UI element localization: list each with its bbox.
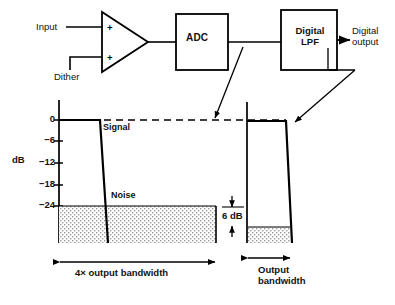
amp-plus-bottom-icon: + [107, 52, 113, 63]
dither-wire [70, 57, 102, 70]
noise-floor-filtered [248, 227, 290, 243]
delta-annotation: 6 dB [222, 211, 243, 222]
wideband-span-label: 4× output bandwidth [75, 268, 168, 279]
input-label: Input [36, 22, 57, 33]
y-tick-label-minus24: −24 [31, 200, 55, 211]
adc-label: ADC [186, 32, 208, 43]
y-tick-label-minus6: −6 [35, 135, 55, 146]
noise-annotation: Noise [111, 190, 136, 200]
digital-output-label: Digital output [352, 26, 378, 47]
lpf-leader-line [295, 70, 355, 122]
signal-annotation: Signal [103, 122, 130, 132]
noise-floor-wideband [59, 206, 216, 243]
figure-oversampling-adc: + + [0, 0, 395, 305]
y-tick-label-0: 0 [41, 114, 55, 125]
signal-trace-filtered [247, 121, 292, 243]
summing-amplifier [102, 12, 148, 72]
y-axis-label: dB [12, 155, 25, 166]
amp-plus-top-icon: + [107, 22, 113, 33]
y-tick-label-minus12: −12 [31, 157, 55, 168]
y-tick-label-minus18: −18 [31, 179, 55, 190]
spectra-plot [54, 100, 292, 262]
dither-label: Dither [54, 72, 79, 83]
digital-lpf-label: Digital LPF [288, 26, 332, 47]
output-bandwidth-span-label: Output bandwidth [258, 265, 306, 286]
